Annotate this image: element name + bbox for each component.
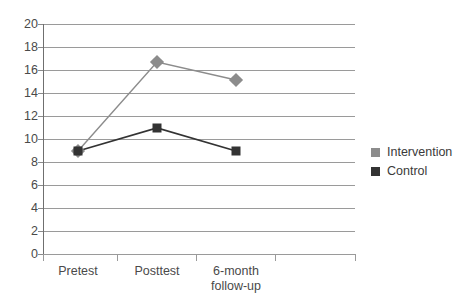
line-chart: 20 18 16 14 12 10 8 6 4 2 0 Pretest Post… bbox=[0, 0, 461, 302]
legend-label: Control bbox=[387, 165, 427, 178]
data-point-control-6-month-follow-up bbox=[232, 147, 241, 156]
legend-swatch-icon bbox=[371, 167, 380, 176]
series-line-intervention bbox=[78, 62, 236, 151]
legend-item-control: Control bbox=[371, 162, 452, 181]
legend: Intervention Control bbox=[371, 143, 452, 181]
data-point-control-pretest bbox=[74, 147, 83, 156]
data-point-control-posttest bbox=[153, 124, 162, 133]
legend-swatch-icon bbox=[371, 148, 380, 157]
data-point-intervention-6-month-follow-up bbox=[229, 73, 243, 87]
legend-label: Intervention bbox=[387, 146, 452, 159]
legend-item-intervention: Intervention bbox=[371, 143, 452, 162]
